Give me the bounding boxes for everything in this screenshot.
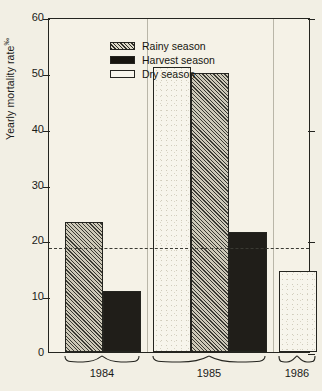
legend-swatch-rainy-icon <box>110 42 135 50</box>
y-tick-20 <box>43 242 50 243</box>
plot-area: Rainy season Harvest season Dry season <box>48 18 310 353</box>
legend-item-dry: Dry season <box>110 67 215 80</box>
x-axis-label-1984: 1984 <box>64 367 140 379</box>
legend-label-dry: Dry season <box>142 68 195 80</box>
legend-swatch-harvest-icon <box>110 56 135 64</box>
y-tick-10 <box>43 298 50 299</box>
legend-item-harvest: Harvest season <box>110 53 215 66</box>
bar-1986-dry <box>279 271 317 352</box>
legend-label-harvest: Harvest season <box>142 54 215 66</box>
bar-1985-harvest <box>229 232 267 352</box>
bar-1985-rainy <box>191 73 229 352</box>
bar-chart: Yearly mortality rate‰ 60 50 40 30 20 10… <box>0 0 322 391</box>
y-tick-40 <box>43 131 50 132</box>
bar-1984-rainy <box>65 222 103 352</box>
y-tick-label-10: 10 <box>14 290 44 302</box>
group-brace-1986 <box>278 355 316 364</box>
x-axis: 1984 1985 1986 <box>48 355 310 391</box>
legend-item-rainy: Rainy season <box>110 39 215 52</box>
legend-label-rainy: Rainy season <box>142 40 206 52</box>
y-tick-label-30: 30 <box>14 179 44 191</box>
x-axis-label-1985: 1985 <box>152 367 266 379</box>
y-tick-label-20: 20 <box>14 234 44 246</box>
y-tick-right-20 <box>308 242 315 243</box>
y-tick-label-0: 0 <box>14 346 44 358</box>
y-tick-50 <box>43 75 50 76</box>
bar-1984-harvest <box>103 291 141 352</box>
y-tick-label-60: 60 <box>14 11 44 23</box>
legend: Rainy season Harvest season Dry season <box>110 39 215 81</box>
x-axis-label-1986: 1986 <box>266 367 322 379</box>
y-tick-label-40: 40 <box>14 123 44 135</box>
reference-line <box>49 248 309 249</box>
y-tick-label-50: 50 <box>14 67 44 79</box>
y-tick-right-40 <box>308 131 315 132</box>
y-axis-unit: ‰ <box>2 38 11 46</box>
group-separator-2 <box>273 19 274 352</box>
group-brace-1985 <box>152 355 266 364</box>
legend-swatch-dry-icon <box>110 70 135 78</box>
y-tick-60 <box>43 19 50 20</box>
bar-1985-dry <box>153 67 191 352</box>
y-tick-right-60 <box>308 19 315 20</box>
group-brace-1984 <box>64 355 140 364</box>
y-tick-30 <box>43 187 50 188</box>
